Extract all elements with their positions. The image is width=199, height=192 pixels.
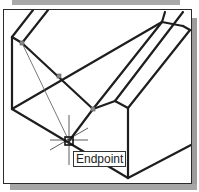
vertex-marker-cap xyxy=(91,107,95,111)
right-chamfer-edges xyxy=(69,12,190,141)
midpoint-marker xyxy=(57,74,61,78)
top-left-chamfer-edges xyxy=(12,10,48,43)
snap-tooltip: Endpoint xyxy=(73,151,126,167)
bottom-right-edge xyxy=(128,145,191,178)
tracking-line xyxy=(22,43,69,141)
vertex-marker-top xyxy=(20,41,24,45)
lower-front-edge xyxy=(12,109,128,178)
long-diagonal-edge xyxy=(12,22,162,109)
